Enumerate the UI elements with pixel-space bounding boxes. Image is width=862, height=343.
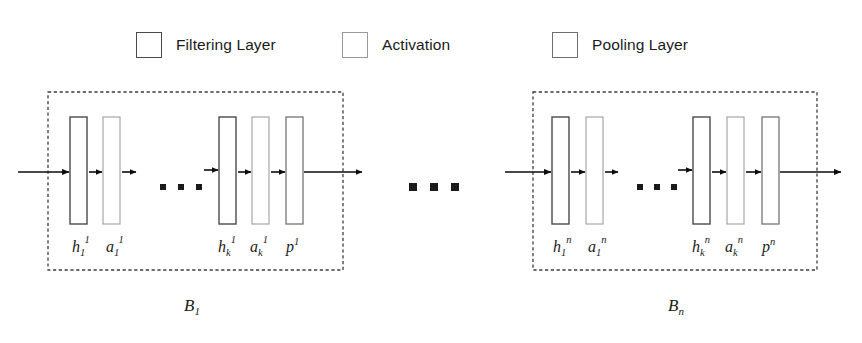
block-n-caption: Bn xyxy=(668,296,684,317)
block-n-layer-labels: h1n a1n hkn akn pn xyxy=(553,234,775,258)
label-a-1-1: a11 xyxy=(106,234,124,258)
label-a-k-n: akn xyxy=(725,234,743,258)
label-p-1: p1 xyxy=(285,236,299,256)
block-n-pooling-layer xyxy=(762,117,779,224)
label-h-1-1: h11 xyxy=(72,234,90,258)
block-1-caption-base: B xyxy=(184,296,194,315)
block-1-caption: B1 xyxy=(184,296,200,317)
block-1-inner-ellipsis xyxy=(160,184,202,190)
between-blocks-ellipsis xyxy=(409,183,459,191)
block-1-filtering-layer-k xyxy=(219,117,236,224)
block-1-layer-labels: h11 a11 hk1 ak1 p1 xyxy=(72,234,299,258)
block-n: h1n a1n hkn akn pn xyxy=(505,92,841,270)
label-h-k-1: hk1 xyxy=(218,234,236,258)
figure-canvas: Filtering Layer Activation Pooling Layer xyxy=(0,0,862,343)
label-a-k-1: ak1 xyxy=(250,234,268,258)
block-n-filtering-layer-k xyxy=(693,117,710,224)
label-a-1-n: a1n xyxy=(588,234,607,258)
block-1-activation-k xyxy=(252,117,269,224)
block-n-caption-sub: n xyxy=(678,305,684,317)
block-n-activation-k xyxy=(727,117,744,224)
label-p-n: pn xyxy=(761,236,775,256)
block-1-pooling-layer xyxy=(286,117,303,224)
block-1-activation-1 xyxy=(103,117,120,224)
label-h-1-n: h1n xyxy=(553,234,572,258)
diagram-svg: h11 a11 hk1 ak1 p1 xyxy=(0,0,862,343)
block-1-filtering-layer-1 xyxy=(70,117,87,224)
block-1-caption-sub: 1 xyxy=(194,305,200,317)
block-1: h11 a11 hk1 ak1 p1 xyxy=(18,92,362,270)
block-n-activation-1 xyxy=(586,117,603,224)
block-n-caption-base: B xyxy=(668,296,678,315)
label-h-k-n: hkn xyxy=(692,234,710,258)
block-n-inner-ellipsis xyxy=(637,184,677,190)
block-n-filtering-layer-1 xyxy=(552,117,569,224)
